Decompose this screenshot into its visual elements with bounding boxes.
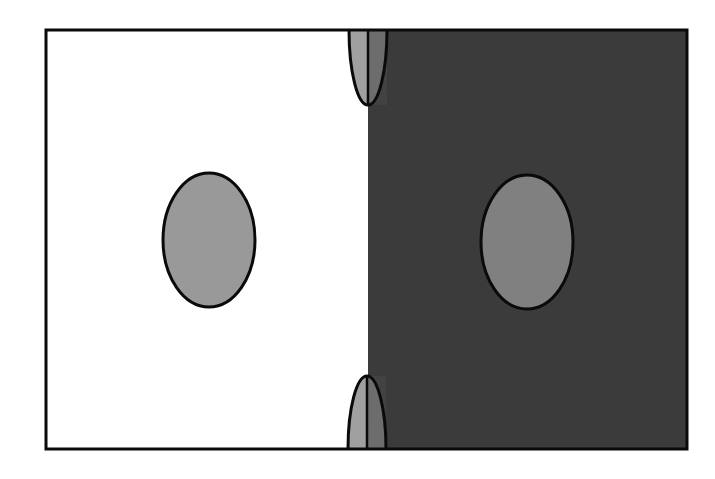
diagram-canvas xyxy=(0,0,715,479)
gray-ellipse-on-light xyxy=(163,173,255,307)
contrast-illusion-diagram xyxy=(0,0,715,479)
gray-ellipse-on-dark xyxy=(481,175,573,309)
